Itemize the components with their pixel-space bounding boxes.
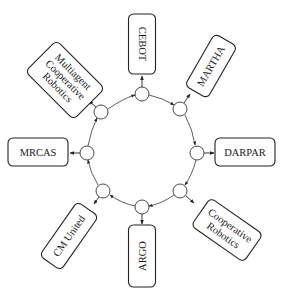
ring-arrow-cooprob-to-argo: [149, 195, 174, 206]
box-mrcas[interactable]: MRCAS: [8, 138, 68, 166]
ring-node-argo[interactable]: [135, 200, 149, 214]
ring-arrow-cebot-to-martha: [149, 95, 174, 105]
ring-diagram: CEBOT MARTHA DARPAR Cooperative Robotics…: [0, 0, 282, 298]
ring-node-mrcas[interactable]: [80, 146, 94, 160]
ring-arrow-martha-to-darpar: [185, 115, 195, 145]
box-darpar[interactable]: DARPAR: [215, 138, 275, 166]
ring-node-darpar[interactable]: [190, 146, 204, 160]
label-argo: ARGO: [137, 241, 148, 271]
spoke-arrow-cooprob: [186, 196, 194, 203]
ring-arrow-argo-to-cmunited: [110, 195, 135, 206]
label-darpar: DARPAR: [224, 147, 266, 158]
ring-nodes: [80, 87, 204, 214]
ring-node-cooperative-robotics[interactable]: [173, 184, 187, 198]
label-mrcas: MRCAS: [20, 147, 57, 158]
label-cebot: CEBOT: [137, 27, 148, 62]
ring-arrow-multiagent-to-cebot: [108, 95, 135, 109]
spoke-arrow-martha: [184, 94, 190, 103]
box-cebot[interactable]: CEBOT: [129, 14, 156, 74]
ring-arrow-darpar-to-cooprob: [185, 160, 196, 185]
ring-node-cebot[interactable]: [135, 87, 149, 101]
ring-node-cm-united[interactable]: [96, 184, 110, 198]
box-cooperative-robotics[interactable]: Cooperative Robotics: [191, 198, 263, 263]
box-martha[interactable]: MARTHA: [185, 34, 238, 99]
box-cm-united[interactable]: CM United: [39, 202, 98, 271]
box-argo[interactable]: ARGO: [129, 225, 156, 287]
ring-node-multiagent[interactable]: [94, 105, 108, 119]
ring-arrow-mrcas-to-multiagent: [88, 118, 97, 146]
box-multiagent-cooperative-robotics[interactable]: Multiagent Cooperative Robotics: [25, 40, 104, 119]
ring-node-martha[interactable]: [173, 102, 187, 116]
spoke-arrow-cmunited: [94, 197, 99, 204]
ring-arrow-cmunited-to-mrcas: [88, 160, 98, 185]
